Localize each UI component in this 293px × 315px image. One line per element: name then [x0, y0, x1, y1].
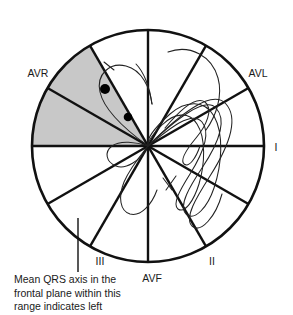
dot-1	[100, 84, 110, 94]
lead-label-avl: AVL	[248, 67, 267, 79]
loop-upper-left-tail	[136, 64, 152, 104]
lead-label-iii: III	[96, 255, 105, 267]
figure-canvas: AVR AVL I II III AVF Mean QRS axis in th…	[0, 0, 293, 315]
hexaxial-reference-diagram: AVR AVL I II III AVF Mean QRS axis in th…	[0, 0, 293, 315]
lead-label-avr: AVR	[28, 67, 49, 79]
left-axis-deviation-wedge	[32, 46, 148, 146]
dot-2	[124, 113, 133, 122]
lead-label-i: I	[275, 141, 278, 153]
caption-line-2: frontal plane within this	[14, 287, 121, 299]
caption-line-1: Mean QRS axis in the	[14, 273, 116, 285]
caption-line-3: range indicates left	[14, 300, 102, 312]
lead-label-ii: II	[209, 255, 215, 267]
lead-label-avf: AVF	[142, 272, 162, 284]
p-loop-small	[121, 146, 157, 214]
